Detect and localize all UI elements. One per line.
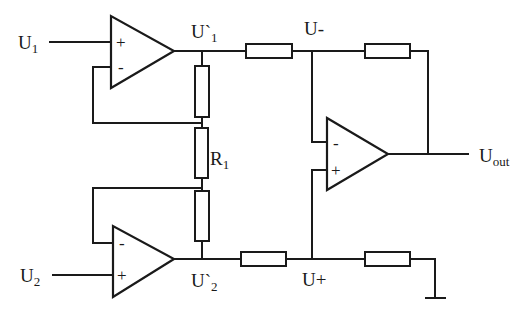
ground-resistor — [365, 252, 410, 266]
u-plus-wire — [312, 170, 327, 259]
opamp-2-minus-sign: - — [119, 234, 125, 253]
u-minus-label: U- — [304, 18, 324, 39]
opamp-2-feedback-wire — [93, 188, 202, 243]
ground-wire — [410, 259, 435, 298]
u1-label: U1 — [18, 32, 38, 56]
bottom-input-resistor — [241, 252, 286, 266]
opamp-1-plus-sign: + — [116, 33, 126, 52]
u1-prime-label: U`1 — [191, 21, 218, 45]
r1-resistor — [195, 128, 208, 178]
circuit-diagram: + - - + - + U1 U2 U`1 U`2 U- U+ R1 Uo — [0, 0, 532, 311]
opamp-1: + - — [111, 16, 174, 88]
top-input-resistor — [246, 44, 292, 58]
u-plus-label: U+ — [302, 269, 326, 290]
upper-feedback-resistor — [195, 66, 209, 117]
opamp-3-minus-sign: - — [333, 134, 339, 153]
output-feedback-wire — [410, 51, 428, 154]
opamp-3-plus-sign: + — [331, 161, 341, 180]
r1-label: R1 — [210, 148, 229, 172]
lower-feedback-resistor — [195, 191, 209, 241]
opamp-3: - + — [327, 118, 388, 190]
opamp-1-minus-sign: - — [118, 58, 124, 77]
opamp-2: - + — [113, 226, 174, 297]
uout-label: Uout — [479, 145, 510, 169]
opamp-2-plus-sign: + — [117, 266, 127, 285]
u-minus-wire — [312, 51, 327, 142]
opamp-1-feedback-wire — [93, 67, 202, 123]
feedback-resistor — [365, 44, 410, 58]
u2-prime-label: U`2 — [191, 270, 218, 294]
u2-label: U2 — [20, 265, 40, 289]
